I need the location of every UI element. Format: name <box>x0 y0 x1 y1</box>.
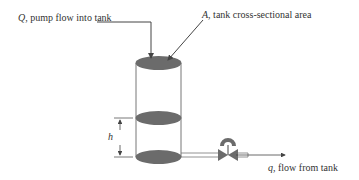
pump-flow-arrow <box>97 22 151 58</box>
height-label: h <box>108 132 113 142</box>
pump-flow-label: Q, pump flow into tank <box>18 13 112 23</box>
area-label: A, tank cross-sectional area <box>202 10 311 20</box>
tank-diagram <box>0 0 359 180</box>
outflow-label: q, flow from tank <box>268 163 338 173</box>
liquid-level-surface <box>136 111 182 125</box>
tank-bottom <box>136 150 182 164</box>
valve-icon <box>218 138 238 161</box>
tank-top-surface <box>136 56 182 70</box>
area-leader-arrow <box>168 20 203 60</box>
